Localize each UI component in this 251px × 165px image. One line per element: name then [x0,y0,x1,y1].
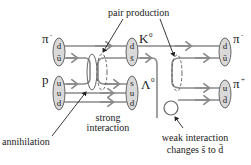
pi-minus-in-label: π [42,31,49,46]
strong-interaction-label-2: interaction [87,122,130,133]
svg-text:u: u [57,88,62,98]
svg-text:u: u [223,83,228,93]
svg-text:0: 0 [151,76,155,84]
svg-text:d: d [57,41,62,51]
svg-text:d: d [130,98,135,108]
annihilation-label: annihilation [2,136,50,147]
svg-text:s̄: s̄ [130,53,134,63]
svg-text:u: u [130,88,135,98]
weak-interaction-label-2: changes s̄ to d̄ [167,144,223,155]
u-pair-loop [172,58,225,88]
proton-label: p [42,72,49,87]
weak-interaction-vertex [164,101,178,115]
strong-interaction-ellipse [87,54,97,90]
svg-text:u: u [57,78,62,88]
kaon-label: K [139,31,149,46]
svg-text:-: - [50,31,53,39]
weak-interaction-label-1: weak interaction [162,132,228,143]
pair-production-loop [98,58,128,84]
svg-text:d: d [57,98,62,108]
annotations: pair production strong interaction annih… [2,7,228,155]
svg-text:d: d [130,41,135,51]
pair-production-ellipse-right [172,55,182,91]
svg-text:d: d [223,41,228,51]
svg-text:ū: ū [223,53,228,63]
pair-production-label: pair production [108,7,169,18]
svg-text:0: 0 [149,31,153,39]
quark-flow-diagram: d ū u u d d s̄ s u d d ū u d̄ π - p K 0 … [0,0,251,165]
annihilation-loop [62,58,90,84]
svg-text:d̄: d̄ [223,95,228,105]
svg-text:ū: ū [57,53,62,63]
lambda-label: Λ [141,77,151,92]
pi-minus-out-label: π [233,31,240,46]
pi-plus-out-label: π [233,76,240,91]
hadron-labels: π - p K 0 Λ 0 π - π + [42,31,245,92]
quark-labels: d ū u u d d s̄ s u d d ū u d̄ [57,41,228,108]
svg-text:+: + [241,76,245,84]
svg-text:s: s [130,78,134,88]
svg-text:-: - [241,31,244,39]
